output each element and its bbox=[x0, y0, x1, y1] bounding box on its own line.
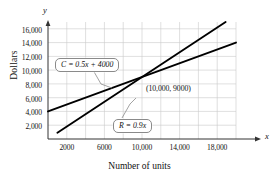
y-tick-label: 12,000 bbox=[0, 53, 42, 62]
x-axis-arrow bbox=[255, 137, 261, 142]
break-even-chart-figure: 16,000 14,000 12,000 10,000 8,000 6,000 … bbox=[0, 0, 279, 178]
y-tick-label: 10,000 bbox=[0, 67, 42, 76]
y-tick-label: 4,000 bbox=[0, 108, 42, 117]
revenue-equation-callout: R = 0.9x bbox=[113, 119, 152, 133]
y-axis-letter: y bbox=[43, 5, 47, 15]
y-tick-label: 8,000 bbox=[0, 81, 42, 90]
y-axis-arrow bbox=[46, 20, 51, 26]
revenue-line bbox=[57, 22, 225, 133]
cost-callout-leader bbox=[93, 70, 112, 88]
x-tick-label: 18,000 bbox=[195, 143, 239, 152]
y-tick-label: 14,000 bbox=[0, 39, 42, 48]
cost-equation-callout: C = 0.5x + 4000 bbox=[55, 58, 119, 72]
break-even-point-label: (10,000, 9000) bbox=[146, 84, 191, 93]
y-axis-title: Dollars bbox=[9, 35, 19, 95]
axis-lines bbox=[48, 24, 256, 139]
x-axis-title: Number of units bbox=[0, 161, 279, 171]
y-tick-label: 2,000 bbox=[0, 122, 42, 131]
x-axis-letter: x bbox=[265, 131, 269, 141]
y-tick-label: 6,000 bbox=[0, 95, 42, 104]
revenue-callout-leader bbox=[122, 98, 136, 118]
y-tick-label: 16,000 bbox=[0, 26, 42, 35]
